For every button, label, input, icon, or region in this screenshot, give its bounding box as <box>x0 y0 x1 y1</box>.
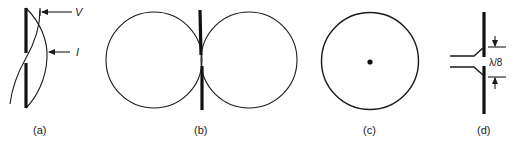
panel-a: V I (a) <box>10 6 84 136</box>
panel-c: (c) <box>322 13 419 137</box>
dipole-antenna-figure: V I (a) (b) (c) <box>0 0 516 142</box>
panel-d-label: (d) <box>477 124 490 136</box>
panel-d: λ/8 (d) <box>450 12 506 136</box>
voltage-label: V <box>75 6 84 18</box>
pattern-lobe-left <box>106 12 202 108</box>
panel-b-label: (b) <box>194 124 207 136</box>
dipole-upper-element <box>200 10 201 55</box>
panel-c-label: (c) <box>363 124 376 136</box>
current-label: I <box>76 46 79 58</box>
feed-line-upper <box>450 48 483 56</box>
current-distribution-curve <box>26 8 47 108</box>
panel-b: (b) <box>106 10 297 136</box>
gap-dimension-label: λ/8 <box>489 57 503 68</box>
dipole-end-on-dot <box>367 59 372 64</box>
feed-line-lower <box>450 67 483 75</box>
panel-a-label: (a) <box>33 124 46 136</box>
pattern-lobe-right <box>201 12 297 108</box>
